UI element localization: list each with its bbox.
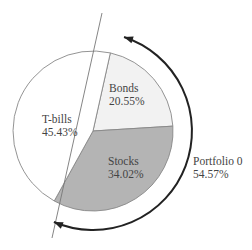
bonds-name: Bonds — [109, 82, 144, 95]
portfolio-value: 54.57% — [193, 168, 243, 181]
portfolio-label: Portfolio 0 54.57% — [193, 155, 243, 181]
stocks-label: Stocks 34.02% — [108, 155, 143, 181]
arrow-head-top — [124, 36, 134, 43]
tbills-name: T-bills — [42, 113, 77, 126]
pie-slices — [13, 51, 173, 211]
portfolio-name: Portfolio 0 — [193, 155, 243, 168]
tbills-value: 45.43% — [42, 126, 77, 139]
bonds-label: Bonds 20.55% — [109, 82, 144, 108]
pie-chart — [0, 0, 252, 250]
stocks-value: 34.02% — [108, 168, 143, 181]
arrow-head-bottom — [54, 222, 64, 229]
bonds-value: 20.55% — [109, 95, 144, 108]
tbills-label: T-bills 45.43% — [42, 113, 77, 139]
stocks-name: Stocks — [108, 155, 143, 168]
